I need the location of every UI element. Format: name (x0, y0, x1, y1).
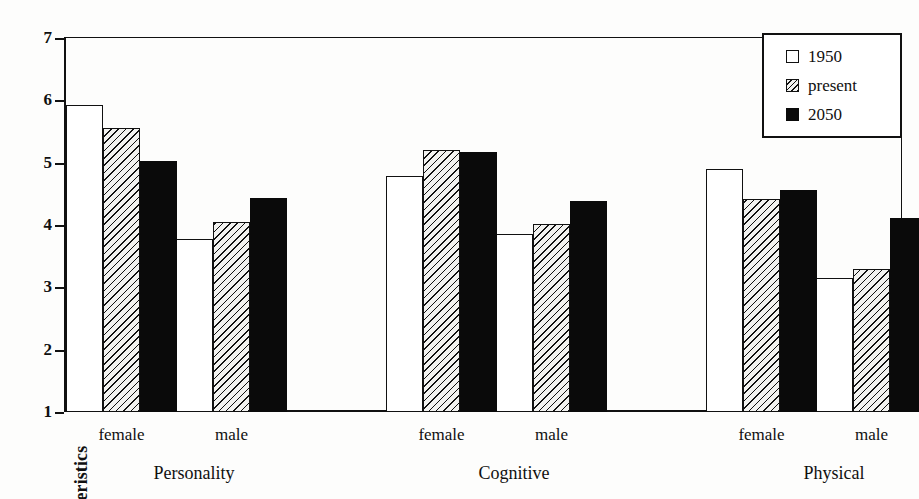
legend-item-1950: 1950 (786, 42, 900, 71)
bar-physical-male-1950 (816, 278, 853, 412)
legend-item-label: 1950 (808, 47, 842, 66)
bar-chart-figure: Likelihood of possessing characteristics… (0, 0, 919, 499)
legend-item-label: present (808, 76, 857, 95)
x-axis-group-label: Physical (754, 462, 914, 484)
bar-physical-male-present (853, 269, 890, 412)
hatched-square-icon (786, 79, 799, 92)
legend-item-label: 2050 (808, 105, 842, 124)
bar-physical-female-present (743, 199, 780, 412)
chart-legend: 1950present2050 (762, 33, 902, 138)
bar-cognitive-female-present (423, 150, 460, 412)
y-tick-label: 1 (24, 401, 52, 423)
y-tick-mark (55, 412, 64, 414)
bar-cognitive-male-present (533, 224, 570, 412)
bar-cognitive-male-1950 (496, 234, 533, 412)
x-axis-gender-label: female (712, 424, 812, 446)
bar-personality-male-2050 (250, 198, 287, 412)
bar-personality-female-2050 (140, 161, 177, 412)
legend-item-2050: 2050 (786, 100, 900, 129)
bar-physical-male-2050 (890, 218, 919, 412)
x-axis-gender-label: female (392, 424, 492, 446)
x-axis-group-label: Cognitive (434, 462, 594, 484)
y-tick-label: 3 (24, 276, 52, 298)
legend-item-present: present (786, 71, 900, 100)
x-axis-gender-label: male (822, 424, 919, 446)
bar-cognitive-female-1950 (386, 176, 423, 412)
black-square-icon (786, 108, 799, 121)
y-tick-label: 5 (24, 152, 52, 174)
y-tick-mark (55, 287, 64, 289)
x-axis-group-label: Personality (114, 462, 274, 484)
y-tick-mark (55, 38, 64, 40)
bar-physical-female-1950 (706, 169, 743, 412)
bar-personality-male-present (213, 222, 250, 412)
x-axis-gender-label: male (182, 424, 282, 446)
y-tick-label: 7 (24, 27, 52, 49)
y-tick-mark (55, 350, 64, 352)
bar-personality-female-1950 (66, 105, 103, 412)
bar-physical-female-2050 (780, 190, 817, 412)
bar-cognitive-male-2050 (570, 201, 607, 412)
white-square-icon (786, 50, 799, 63)
y-tick-label: 2 (24, 339, 52, 361)
bar-cognitive-female-2050 (460, 152, 497, 412)
y-tick-mark (55, 100, 64, 102)
bar-personality-male-1950 (176, 239, 213, 412)
x-axis-gender-label: female (72, 424, 172, 446)
y-tick-mark (55, 163, 64, 165)
y-tick-label: 4 (24, 214, 52, 236)
y-tick-label: 6 (24, 89, 52, 111)
y-tick-mark (55, 225, 64, 227)
bar-personality-female-present (103, 128, 140, 412)
x-axis-gender-label: male (502, 424, 602, 446)
